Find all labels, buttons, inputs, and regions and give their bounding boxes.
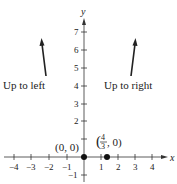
chart-canvas: x y −4 −3 −2 −1 1 2 3 4 −1 2 3 [0, 0, 177, 184]
svg-text:−4: −4 [9, 162, 19, 172]
four-thirds-label: ( 4 3 , 0) [96, 133, 122, 151]
x-axis-arrow-icon [161, 155, 168, 159]
svg-text:1: 1 [99, 162, 104, 172]
svg-text:7: 7 [74, 27, 79, 37]
svg-text:2: 2 [74, 116, 79, 126]
x-axis-label: x [169, 152, 175, 163]
svg-text:6: 6 [74, 45, 79, 55]
arrowhead-icon [133, 38, 138, 46]
svg-text:, 0): , 0) [107, 136, 122, 149]
svg-text:−2: −2 [44, 162, 54, 172]
svg-text:4: 4 [74, 81, 79, 91]
origin-label: (0, 0) [55, 141, 79, 154]
up-left-arrow [40, 38, 47, 76]
x-tick-labels: −4 −3 −2 −1 1 2 3 4 [9, 162, 155, 172]
svg-text:2: 2 [116, 162, 121, 172]
up-right-label: Up to right [104, 79, 152, 91]
svg-text:4: 4 [101, 133, 105, 142]
point-origin [81, 154, 87, 160]
svg-text:3: 3 [133, 162, 138, 172]
y-axis-arrow-icon [82, 18, 86, 25]
svg-text:4: 4 [150, 162, 155, 172]
svg-text:3: 3 [74, 99, 79, 109]
point-four-thirds [104, 154, 110, 160]
up-right-arrow [131, 38, 138, 76]
y-axis-label: y [80, 6, 86, 17]
arrowhead-icon [40, 38, 45, 46]
svg-text:3: 3 [101, 142, 105, 151]
svg-text:5: 5 [74, 63, 79, 73]
svg-text:−3: −3 [26, 162, 36, 172]
svg-text:−1: −1 [68, 170, 78, 180]
up-left-label: Up to left [3, 79, 45, 91]
